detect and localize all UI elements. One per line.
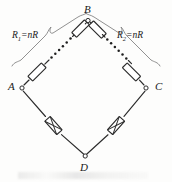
- branch-label-r2: R2=nR: [117, 31, 143, 42]
- wire-lower-resistor-to-c: [124, 91, 145, 116]
- resistor-lower-right: [107, 116, 124, 134]
- node-a: [20, 86, 24, 90]
- ellipsis-upper-left: [50, 37, 72, 59]
- wire-d-to-lower-resistor-right: [87, 135, 108, 155]
- wire-ul-1: [45, 60, 49, 64]
- wire-a-to-resistor: [24, 80, 29, 85]
- resistor-upper-left-1: [28, 63, 46, 81]
- circuit-diagram-svg: [0, 0, 172, 182]
- node-b: [86, 18, 90, 22]
- branch-label-r2-rest: =nR: [126, 30, 143, 40]
- wire-ur-2: [128, 61, 131, 64]
- node-d: [83, 154, 87, 158]
- vertex-label-a: A: [8, 81, 15, 92]
- vertex-label-c: C: [155, 81, 162, 92]
- branch-label-r1-rest: =nR: [21, 30, 38, 40]
- lower-right-arm: [87, 91, 145, 154]
- resistor-upper-right-2: [122, 63, 140, 81]
- wire-lower-resistor-to-d-left: [62, 135, 84, 155]
- branch-label-r1: R1=nR: [12, 31, 38, 42]
- resistor-lower-left: [45, 116, 62, 134]
- lower-left-arm: [23, 91, 84, 154]
- wire-resistor-to-c: [140, 80, 145, 85]
- page-scan-artifact: [18, 172, 148, 179]
- node-c: [144, 86, 148, 90]
- figure-canvas: B A C D R1=nR R2=nR: [0, 0, 172, 182]
- wire-a-to-lower-resistor: [23, 91, 45, 116]
- vertex-label-b: B: [84, 4, 91, 15]
